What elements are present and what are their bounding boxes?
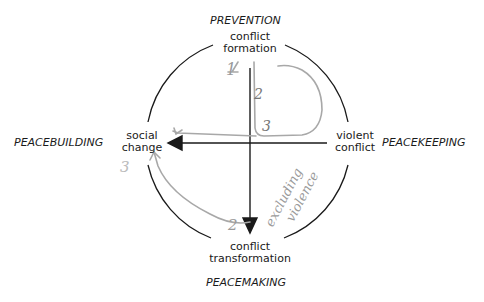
label-line: transformation xyxy=(200,253,300,265)
label-line: change xyxy=(118,142,166,154)
label-line: conflict xyxy=(330,142,380,154)
arrow-down-icon xyxy=(243,218,257,233)
arrow-left-icon xyxy=(168,136,182,150)
label-social-change: social change xyxy=(118,130,166,154)
step-2-bottom-mark: 2 xyxy=(228,216,238,234)
label-violent-conflict: violent conflict xyxy=(330,130,380,154)
step-3-left-mark: 3 xyxy=(120,158,130,176)
step-1-mark: 1 xyxy=(226,60,236,79)
caption-prevention: PREVENTION xyxy=(210,14,281,27)
label-conflict-formation: conflict formation xyxy=(210,31,290,55)
step-3-mark: 3 xyxy=(262,118,271,134)
label-conflict-transformation: conflict transformation xyxy=(200,241,300,265)
caption-peacekeeping: PEACEKEEPING xyxy=(382,136,465,149)
step-2-mark: 2 xyxy=(254,86,263,102)
caption-peacebuilding: PEACEBUILDING xyxy=(14,136,103,149)
caption-peacemaking: PEACEMAKING xyxy=(206,276,286,289)
label-line: formation xyxy=(210,43,290,55)
